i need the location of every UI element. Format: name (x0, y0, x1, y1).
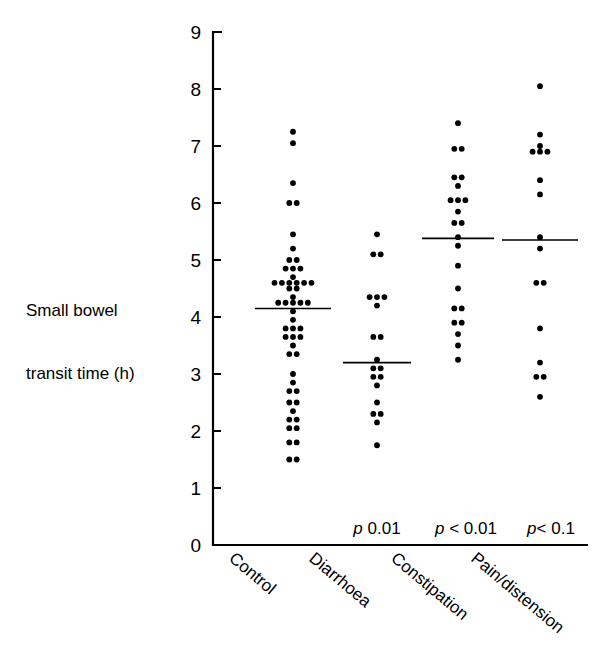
data-point (370, 365, 376, 371)
data-point (298, 266, 304, 272)
category-label-control: Control (225, 549, 279, 599)
p-value-annotation: p< 0.1 (526, 519, 575, 538)
data-point (378, 374, 384, 380)
p-symbol: p (526, 519, 536, 538)
y-tick-label: 5 (190, 250, 201, 271)
data-point (290, 246, 296, 252)
data-point (298, 300, 304, 306)
category-label-constipation: Constipation (387, 549, 472, 624)
data-point (448, 197, 454, 203)
data-point (272, 280, 278, 286)
data-point (286, 351, 292, 357)
y-tick-label: 9 (190, 22, 201, 43)
data-point (455, 197, 461, 203)
data-point (294, 388, 300, 394)
data-point (541, 280, 547, 286)
data-point (279, 280, 285, 286)
p-value-number: < 0.01 (445, 519, 497, 538)
data-point (537, 246, 543, 252)
p-value-annotation: p < 0.01 (434, 519, 497, 538)
data-point (537, 149, 543, 155)
data-point (459, 220, 465, 226)
data-point (455, 286, 461, 292)
data-point (455, 331, 461, 337)
data-point (537, 234, 543, 240)
data-point (283, 266, 289, 272)
data-point (451, 174, 457, 180)
data-point (374, 294, 380, 300)
data-point (537, 394, 543, 400)
data-point (370, 251, 376, 257)
data-point (370, 334, 376, 340)
data-point (537, 132, 543, 138)
data-point (451, 320, 457, 326)
data-point (378, 365, 384, 371)
data-point (537, 326, 543, 332)
data-point (290, 334, 296, 340)
data-point (305, 300, 311, 306)
data-point (370, 374, 376, 380)
data-point (374, 442, 380, 448)
data-point (286, 388, 292, 394)
data-point (290, 266, 296, 272)
data-point (455, 263, 461, 269)
data-point (455, 343, 461, 349)
data-point (545, 149, 551, 155)
data-point (455, 234, 461, 240)
p-value-annotation: p 0.01 (352, 519, 400, 538)
data-point (286, 417, 292, 423)
y-tick-label: 1 (190, 478, 201, 499)
y-tick-label: 2 (190, 421, 201, 442)
y-tick-label: 0 (190, 535, 201, 556)
y-tick-label: 8 (190, 79, 201, 100)
data-point (290, 300, 296, 306)
data-point (455, 209, 461, 215)
p-value-number: < 0.1 (537, 519, 575, 538)
data-point (290, 343, 296, 349)
axis-group (213, 32, 588, 545)
p-value-annotations-group: p 0.01p < 0.01p< 0.1 (352, 519, 575, 538)
data-point (286, 200, 292, 206)
data-point (459, 146, 465, 152)
data-point (459, 320, 465, 326)
data-point (367, 294, 373, 300)
p-symbol: p (352, 519, 362, 538)
data-point (290, 317, 296, 323)
data-point (294, 400, 300, 406)
data-point (286, 257, 292, 263)
data-point (290, 274, 296, 280)
data-point (298, 334, 304, 340)
data-point (533, 280, 539, 286)
p-value-number: 0.01 (363, 519, 401, 538)
data-point (290, 380, 296, 386)
data-point (286, 286, 292, 292)
data-point (290, 308, 296, 314)
dot-plot-svg: 0123456789 p 0.01p < 0.01p< 0.1 ControlD… (0, 0, 603, 663)
data-point (290, 129, 296, 135)
data-point (290, 231, 296, 237)
data-point (294, 440, 300, 446)
data-point (374, 231, 380, 237)
data-point (537, 177, 543, 183)
category-label-pain-distension: Pain/distension (467, 549, 568, 638)
data-point (374, 303, 380, 309)
data-point (294, 257, 300, 263)
y-tick-label: 7 (190, 136, 201, 157)
data-point (290, 180, 296, 186)
data-point (541, 374, 547, 380)
axis-frame (213, 32, 588, 545)
data-point (294, 280, 300, 286)
mean-lines-group (255, 238, 578, 362)
category-labels-group: ControlDiarrhoeaConstipationPain/distens… (225, 549, 568, 638)
data-point (537, 143, 543, 149)
data-point (451, 220, 457, 226)
data-point (286, 400, 292, 406)
data-point (537, 83, 543, 89)
data-point (294, 351, 300, 357)
data-point (290, 326, 296, 332)
data-point (455, 183, 461, 189)
data-point (451, 146, 457, 152)
data-point (451, 306, 457, 312)
y-tick-label: 3 (190, 364, 201, 385)
data-point (294, 286, 300, 292)
